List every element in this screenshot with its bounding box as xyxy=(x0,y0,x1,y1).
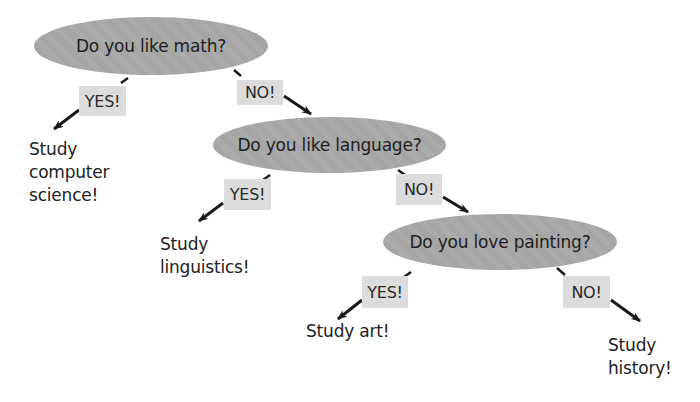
question-text: Do you love painting? xyxy=(409,232,590,252)
question-node-math: Do you like math? xyxy=(34,17,268,75)
arrow-q2-yes xyxy=(199,203,223,221)
outcome-line: history! xyxy=(608,357,672,380)
arrow-stub-q1-yes xyxy=(121,78,128,83)
question-text: Do you like math? xyxy=(76,36,226,56)
outcome-line: computer xyxy=(29,161,109,184)
branch-label-q3-yes: YES! xyxy=(362,276,408,308)
question-node-painting: Do you love painting? xyxy=(383,214,617,270)
branch-label-q2-yes: YES! xyxy=(224,179,271,210)
branch-label-q1-yes: YES! xyxy=(79,86,126,116)
outcome-line: Study xyxy=(29,138,109,161)
outcome-line: Study art! xyxy=(306,320,389,343)
branch-label-q2-no: NO! xyxy=(396,174,442,205)
arrow-q1-no xyxy=(284,96,311,114)
outcome-history: Study history! xyxy=(608,334,672,380)
arrow-q1-yes xyxy=(54,110,79,129)
arrow-stub-q1-no xyxy=(234,70,241,76)
outcome-line: Study xyxy=(608,334,672,357)
arrow-q3-no xyxy=(611,300,640,321)
question-node-language: Do you like language? xyxy=(213,117,446,173)
outcome-art: Study art! xyxy=(306,320,389,343)
outcome-line: linguistics! xyxy=(160,256,249,279)
arrow-q3-yes xyxy=(338,300,362,319)
outcome-line: science! xyxy=(29,184,109,207)
arrow-stub-q3-no xyxy=(557,268,565,275)
question-text: Do you like language? xyxy=(237,135,421,155)
outcome-line: Study xyxy=(160,233,249,256)
branch-label-q3-no: NO! xyxy=(563,276,610,308)
outcome-linguistics: Study linguistics! xyxy=(160,233,249,279)
branch-label-q1-no: NO! xyxy=(237,80,283,105)
arrow-q2-no xyxy=(443,197,468,212)
decision-tree-diagram: Do you like math? Do you like language? … xyxy=(0,0,700,402)
outcome-computer-science: Study computer science! xyxy=(29,138,109,207)
